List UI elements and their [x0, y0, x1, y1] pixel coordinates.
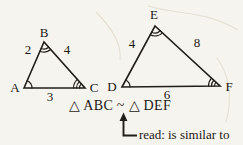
vertex-label-f: F [225, 79, 232, 94]
similarity-statement: △ ABC ~ △ DEF [69, 98, 171, 113]
side-length-de: 4 [129, 36, 136, 51]
read-label: read: [139, 127, 165, 142]
vertex-label-a: A [10, 80, 20, 95]
read-text: is similar to [168, 127, 229, 142]
vertex-label-e: E [150, 7, 158, 22]
vertex-label-b: B [40, 25, 49, 40]
vertex-label-d: D [107, 79, 116, 94]
side-length-bc: 4 [64, 42, 71, 57]
side-length-ab: 2 [25, 42, 32, 57]
side-length-ac: 3 [47, 89, 54, 104]
side-length-ef: 8 [194, 35, 201, 50]
vertex-label-c: C [90, 80, 99, 95]
similar-triangles-figure: A B C 2 4 3 D E F 4 8 6 △ ABC ~ △ DEF re… [0, 0, 243, 145]
